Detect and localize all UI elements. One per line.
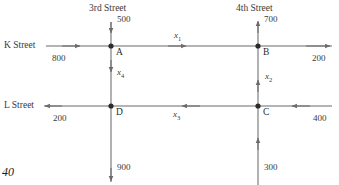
node-c [255,103,260,108]
network-graphic [0,0,339,185]
node-label-b: B [263,48,269,58]
street-label-3rd: 3rd Street [89,4,126,14]
flow-value-outflow-k-right: 200 [312,54,326,63]
flow-value-inflow-l-right: 400 [313,114,327,123]
node-d [108,103,113,108]
flow-value-inflow-3rd-top: 500 [117,15,131,24]
flow-value-outflow-l-left: 200 [53,114,67,123]
flow-label-x3-sub: 3 [177,114,180,121]
node-label-c: C [263,108,269,118]
flow-value-outflow-3rd-bottom: 900 [117,163,131,172]
node-a [108,43,113,48]
street-label-k: K Street [4,41,35,51]
flow-label-x1: x1 [174,31,181,42]
flow-label-x2: x2 [265,72,272,83]
page-number: 40 [2,166,14,178]
flow-value-outflow-4th-top: 700 [264,15,278,24]
node-label-a: A [116,48,123,58]
street-label-l: L Street [4,101,34,111]
flow-label-x2-sub: 2 [269,76,272,83]
flow-value-inflow-4th-bottom: 300 [264,163,278,172]
flow-label-x3: x3 [173,110,180,121]
node-b [255,43,260,48]
figure-traffic-network: 3rd Street 4th Street K Street L Street … [0,0,339,185]
flow-label-x1-sub: 1 [178,35,181,42]
street-label-4th: 4th Street [236,4,273,14]
node-label-d: D [116,108,123,118]
flow-label-x4: x4 [117,68,124,79]
flow-value-inflow-k-left: 800 [52,54,66,63]
flow-label-x4-sub: 4 [121,72,124,79]
